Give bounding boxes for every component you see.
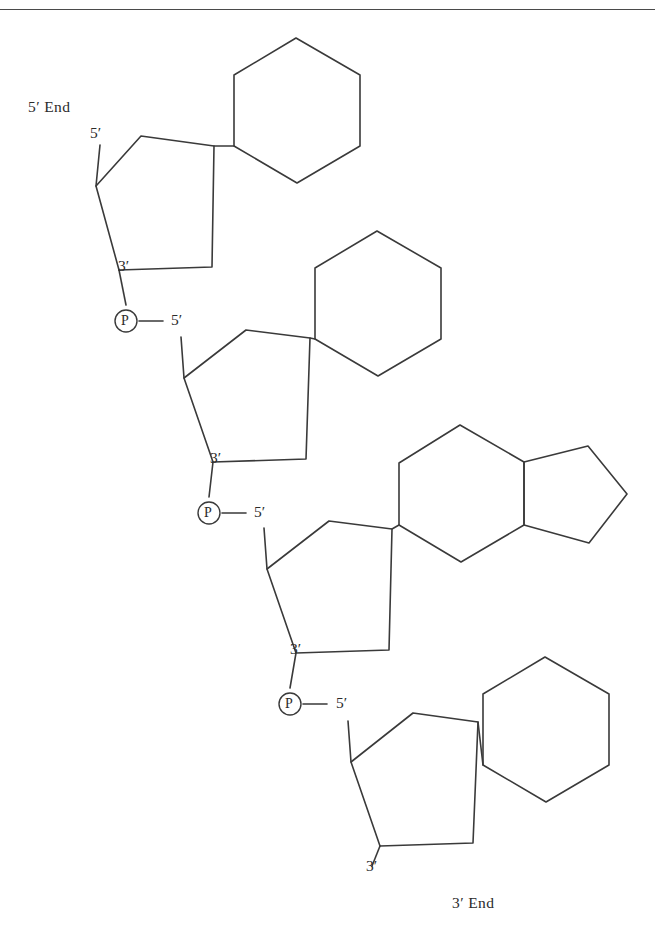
three-prime-label-2: 3′ bbox=[210, 450, 221, 466]
sugar-ring-pentagon-4 bbox=[351, 713, 478, 846]
base-ring-pentagon-3 bbox=[524, 446, 627, 543]
five-prime-bond-2 bbox=[181, 337, 184, 378]
sugar-ring-pentagon-1 bbox=[96, 136, 214, 270]
base-ring-hexagon-1 bbox=[234, 38, 360, 183]
base-ring-hexagon-4 bbox=[483, 657, 609, 802]
phosphate-symbol-3: P bbox=[285, 697, 293, 711]
sugar-ring-pentagon-2 bbox=[184, 330, 310, 462]
five-prime-bond-1 bbox=[96, 145, 100, 186]
three-prime-label-4: 3′ bbox=[366, 858, 377, 874]
sugar-ring-pentagon-3 bbox=[267, 521, 392, 653]
five-prime-label-2: 5′ bbox=[171, 312, 182, 328]
five-prime-label-1: 5′ bbox=[90, 125, 101, 141]
five-prime-bond-3 bbox=[264, 528, 267, 569]
five-prime-bond-4 bbox=[348, 721, 351, 762]
five-prime-end-label: 5′ End bbox=[28, 99, 70, 115]
figure-page: 5′ End 5′ 3′ P 5′ 3′ P 5′ 3′ P 5′ 3′ 3′ … bbox=[0, 0, 655, 929]
three-prime-label-1: 3′ bbox=[118, 258, 129, 274]
base-ring-hexagon-2 bbox=[315, 231, 441, 376]
three-prime-label-3: 3′ bbox=[290, 641, 301, 657]
three-prime-end-label: 3′ End bbox=[452, 895, 494, 911]
five-prime-label-3: 5′ bbox=[254, 504, 265, 520]
three-prime-bond-1 bbox=[119, 270, 126, 305]
three-prime-bond-2 bbox=[209, 462, 213, 497]
base-ring-hexagon-3 bbox=[399, 425, 524, 562]
glycosidic-bond-3 bbox=[392, 525, 399, 529]
nucleotide-unit-4 bbox=[348, 657, 609, 866]
nucleotide-unit-3 bbox=[264, 425, 627, 688]
phosphate-symbol-2: P bbox=[204, 506, 212, 520]
three-prime-bond-3 bbox=[290, 653, 296, 688]
phosphate-symbol-1: P bbox=[121, 314, 129, 328]
five-prime-label-4: 5′ bbox=[336, 695, 347, 711]
glycosidic-bond-2 bbox=[310, 338, 315, 339]
